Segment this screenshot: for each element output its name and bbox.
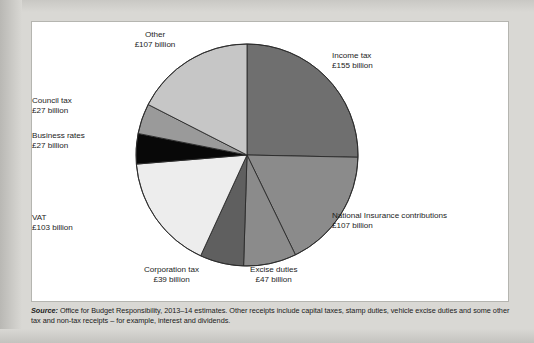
pie-label-income-tax-name: Income tax	[332, 51, 373, 61]
pie-label-excise-duties-value: £47 billion	[250, 275, 297, 285]
pie-label-vat: VAT £103 billion	[32, 213, 150, 234]
source-note-prefix: Source:	[31, 306, 58, 315]
pie-label-business-rates: Business rates £27 billion	[32, 131, 150, 152]
pie-chart	[32, 22, 510, 303]
pie-label-council-tax-name: Council tax	[32, 96, 163, 106]
pie-chart-panel: Income tax £155 billion National Insuran…	[31, 21, 509, 302]
pie-label-business-rates-name: Business rates	[32, 131, 150, 141]
source-note: Source: Office for Budget Responsibility…	[31, 306, 511, 325]
pie-label-vat-value: £103 billion	[32, 223, 150, 233]
figure-container: Income tax £155 billion National Insuran…	[0, 0, 534, 343]
pie-slice-group	[136, 44, 358, 266]
pie-label-vat-name: VAT	[32, 213, 150, 223]
pie-label-national-insurance: National Insurance contributions £107 bi…	[332, 211, 447, 232]
pie-label-national-insurance-value: £107 billion	[332, 221, 447, 231]
pie-chart-svg	[32, 22, 510, 303]
page-edge-shading-bottom	[0, 329, 534, 343]
pie-label-income-tax-value: £155 billion	[332, 61, 373, 71]
pie-label-council-tax-value: £27 billion	[32, 106, 163, 116]
pie-label-other-value: £107 billion	[96, 40, 214, 50]
pie-label-council-tax: Council tax £27 billion	[32, 96, 163, 117]
page-edge-shading-top	[0, 0, 534, 12]
pie-label-corporation-tax-value: £39 billion	[144, 275, 199, 285]
pie-label-national-insurance-name: National Insurance contributions	[332, 211, 447, 221]
page-edge-shading-left	[0, 0, 22, 343]
pie-label-other-name: Other	[96, 30, 214, 40]
pie-label-excise-duties-name: Excise duties	[250, 265, 297, 275]
pie-label-other: Other £107 billion	[96, 30, 214, 51]
source-note-text: Office for Budget Responsibility, 2013–1…	[31, 306, 509, 325]
pie-label-income-tax: Income tax £155 billion	[332, 51, 373, 72]
pie-label-business-rates-value: £27 billion	[32, 141, 150, 151]
pie-label-excise-duties: Excise duties £47 billion	[250, 265, 297, 286]
pie-label-corporation-tax: Corporation tax £39 billion	[144, 265, 199, 286]
pie-label-corporation-tax-name: Corporation tax	[144, 265, 199, 275]
